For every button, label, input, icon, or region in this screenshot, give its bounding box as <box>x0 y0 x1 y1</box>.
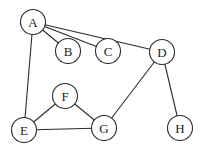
node-f: F <box>53 84 78 109</box>
node-h: H <box>168 116 193 141</box>
node-label: D <box>157 45 166 60</box>
node-label: B <box>64 44 73 59</box>
edge-g-d <box>104 52 162 128</box>
node-g: G <box>92 116 117 141</box>
node-label: H <box>175 121 184 136</box>
edges-layer <box>24 22 180 130</box>
graph-diagram: ABCDEFGH <box>0 0 209 158</box>
node-label: E <box>20 123 28 138</box>
node-label: G <box>99 121 108 136</box>
node-label: F <box>61 89 68 104</box>
node-label: C <box>104 44 113 59</box>
node-e: E <box>12 118 37 143</box>
node-c: C <box>96 39 121 64</box>
edge-a-e <box>24 22 33 130</box>
node-label: A <box>28 15 38 30</box>
node-a: A <box>21 10 46 35</box>
node-d: D <box>150 40 175 65</box>
node-b: B <box>56 39 81 64</box>
nodes-layer: ABCDEFGH <box>12 10 193 143</box>
